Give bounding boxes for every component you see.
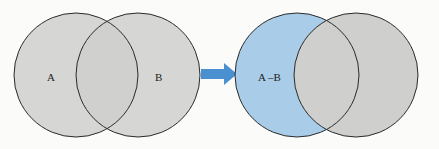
venn-before: A B <box>14 13 200 137</box>
label-b: B <box>155 71 162 83</box>
venn-after: A –B <box>235 13 418 137</box>
arrow-right-icon <box>201 63 237 85</box>
venn-diagram: A B A –B <box>0 0 439 149</box>
label-a: A <box>47 71 55 83</box>
label-a-minus-b: A –B <box>258 71 281 83</box>
